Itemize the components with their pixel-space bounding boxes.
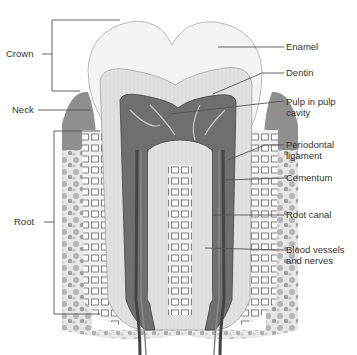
label-pulp-line2: cavity bbox=[286, 107, 356, 118]
label-neck: Neck bbox=[12, 104, 34, 115]
label-pulp: Pulp in pulp cavity bbox=[286, 96, 356, 118]
label-pulp-line1: Pulp in pulp bbox=[286, 96, 356, 107]
label-blood-vessels-line2: and nerves bbox=[286, 255, 356, 266]
label-cementum: Cementum bbox=[286, 172, 332, 183]
label-root-canal: Root canal bbox=[286, 209, 331, 220]
label-enamel: Enamel bbox=[286, 41, 318, 52]
label-crown: Crown bbox=[6, 48, 33, 59]
label-periodontal-line2: ligament bbox=[286, 150, 356, 161]
label-periodontal-ligament: Periodontal ligament bbox=[286, 139, 356, 161]
label-dentin: Dentin bbox=[286, 67, 313, 78]
label-periodontal-line1: Periodontal bbox=[286, 139, 356, 150]
label-blood-vessels-line1: Blood vessels bbox=[286, 244, 356, 255]
inter-root-region bbox=[148, 146, 212, 325]
label-root: Root bbox=[14, 216, 34, 227]
label-blood-vessels: Blood vessels and nerves bbox=[286, 244, 356, 266]
